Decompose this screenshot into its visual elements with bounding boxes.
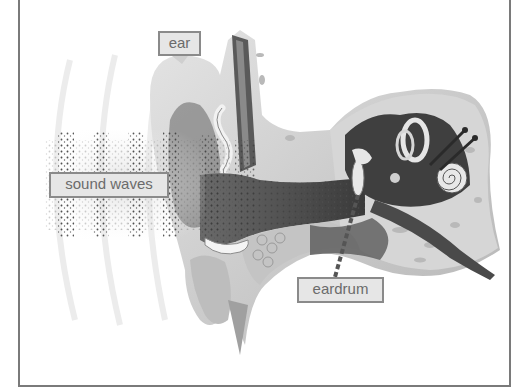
incus [390,173,400,183]
label-ear: ear [158,31,201,56]
label-eardrum: eardrum [297,277,384,303]
label-sound-waves: sound waves [49,172,169,198]
eardrum-membrane [352,160,364,196]
